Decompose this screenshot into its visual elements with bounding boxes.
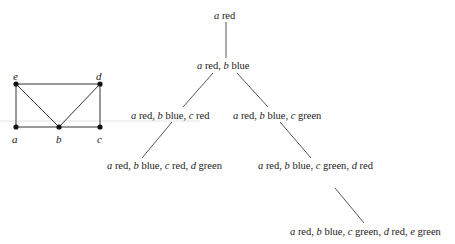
tree-edge-n1-n2 (183, 73, 213, 107)
vertex-ref: b (317, 226, 322, 237)
vertex-ref: d (384, 226, 389, 237)
vertex-label-c: c (97, 133, 102, 145)
vertex-ref: a (258, 160, 263, 171)
vertex-b (56, 124, 61, 129)
vertex-ref: c (291, 110, 296, 121)
vertex-label-b: b (56, 133, 62, 145)
diagram-canvas (0, 0, 455, 244)
tree-edge-n1-n3 (237, 73, 268, 107)
vertex-ref: a (233, 110, 238, 121)
vertex-ref: b (285, 160, 290, 171)
vertex-e (13, 81, 18, 86)
vertex-ref: a (131, 110, 136, 121)
vertex-ref: c (348, 226, 353, 237)
tree-node-n0: a red (214, 10, 235, 22)
vertex-c (97, 124, 102, 129)
vertex-a (13, 124, 18, 129)
vertex-ref: b (224, 60, 229, 71)
vertex-label-d: d (96, 70, 102, 82)
tree-edge-n2-n4 (142, 122, 172, 158)
vertex-ref: b (134, 160, 139, 171)
vertex-ref: d (191, 160, 196, 171)
tree-node-n3: a red, b blue, c green (233, 110, 321, 122)
vertex-ref: b (158, 110, 163, 121)
tree-node-n1: a red, b blue (197, 60, 250, 72)
vertex-ref: a (197, 60, 202, 71)
vertex-d (97, 81, 102, 86)
tree-edge-n5-n6 (335, 188, 364, 223)
vertex-ref: a (107, 160, 112, 171)
vertex-ref: c (165, 160, 170, 171)
vertex-label-a: a (12, 133, 18, 145)
vertex-ref: c (316, 160, 321, 171)
tree-node-n5: a red, b blue, c green, d red (258, 160, 373, 172)
graph-vertices (13, 81, 102, 129)
tree-edges (142, 22, 364, 223)
vertex-ref: e (410, 226, 415, 237)
vertex-ref: c (189, 110, 194, 121)
tree-node-n2: a red, b blue, c red (131, 110, 209, 122)
vertex-ref: a (214, 10, 219, 21)
vertex-ref: a (290, 226, 295, 237)
vertex-ref: d (352, 160, 357, 171)
vertex-ref: b (260, 110, 265, 121)
tree-node-n6: a red, b blue, c green, d red, e green (290, 226, 441, 238)
vertex-label-e: e (13, 70, 18, 82)
tree-node-n4: a red, b blue, c red, d green (107, 160, 222, 172)
tree-edge-n3-n5 (280, 122, 311, 158)
